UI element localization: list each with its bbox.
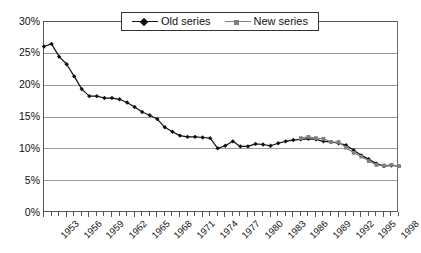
x-axis-tick-label: 1995 bbox=[375, 218, 398, 241]
x-axis-tick-label: 1986 bbox=[307, 218, 330, 241]
y-axis-tick-label: 15% bbox=[2, 111, 40, 121]
data-point-diamond bbox=[110, 96, 114, 100]
x-axis-tick-label: 1962 bbox=[126, 218, 149, 241]
data-point-diamond bbox=[117, 97, 121, 101]
chart-legend: Old series New series bbox=[121, 12, 319, 31]
x-axis-labels: 1953195619591962196519681971197419771980… bbox=[0, 216, 413, 253]
data-point-diamond bbox=[291, 138, 295, 142]
legend-line-new-series bbox=[225, 21, 251, 22]
x-axis-tick-label: 1953 bbox=[58, 218, 81, 241]
legend-item-old-series[interactable]: Old series bbox=[132, 16, 211, 27]
data-point-diamond bbox=[102, 96, 106, 100]
x-axis-tick-label: 1965 bbox=[149, 218, 172, 241]
y-axis-tick-label: 0% bbox=[2, 207, 40, 217]
data-point-square bbox=[306, 135, 310, 139]
legend-line-old-series bbox=[132, 21, 158, 22]
x-axis-tick-label: 1959 bbox=[104, 218, 127, 241]
data-point-square bbox=[314, 136, 318, 140]
data-point-diamond bbox=[95, 94, 99, 98]
data-point-square bbox=[344, 146, 348, 150]
data-point-square bbox=[390, 163, 394, 167]
x-axis-tick-label: 1992 bbox=[353, 218, 376, 241]
data-point-diamond bbox=[284, 139, 288, 143]
y-axis-tick-label: 20% bbox=[2, 79, 40, 89]
data-point-square bbox=[352, 151, 356, 155]
data-point-diamond bbox=[268, 144, 272, 148]
data-point-diamond bbox=[200, 135, 204, 139]
data-point-diamond bbox=[246, 144, 250, 148]
data-point-square bbox=[374, 163, 378, 167]
x-axis-tick-label: 1998 bbox=[398, 218, 421, 241]
y-axis-tick-label: 5% bbox=[2, 175, 40, 185]
x-axis-tick-label: 1977 bbox=[239, 218, 262, 241]
data-point-square bbox=[329, 140, 333, 144]
legend-label-old-series: Old series bbox=[161, 16, 211, 27]
y-axis-tick-label: 10% bbox=[2, 143, 40, 153]
data-point-diamond bbox=[261, 142, 265, 146]
legend-label-new-series: New series bbox=[254, 16, 308, 27]
plot-area bbox=[43, 21, 398, 212]
data-point-square bbox=[382, 164, 386, 168]
data-point-square bbox=[322, 137, 326, 141]
x-axis-tick-label: 1956 bbox=[81, 218, 104, 241]
data-point-diamond bbox=[178, 133, 182, 137]
data-point-square bbox=[359, 155, 363, 159]
data-point-diamond bbox=[148, 113, 152, 117]
x-axis-tick-label: 1989 bbox=[330, 218, 353, 241]
data-point-square bbox=[397, 164, 401, 168]
square-marker-icon bbox=[234, 20, 239, 25]
y-axis-tick-label: 30% bbox=[2, 16, 40, 26]
data-point-square bbox=[367, 159, 371, 163]
x-axis-tick-label: 1980 bbox=[262, 218, 285, 241]
x-axis-tick-label: 1983 bbox=[285, 218, 308, 241]
data-point-diamond bbox=[42, 44, 46, 48]
x-axis-tick-label: 1968 bbox=[171, 218, 194, 241]
x-axis-tick-label: 1971 bbox=[194, 218, 217, 241]
x-axis-tick-label: 1974 bbox=[217, 218, 240, 241]
data-point-diamond bbox=[193, 135, 197, 139]
legend-item-new-series[interactable]: New series bbox=[225, 16, 308, 27]
series-line-new bbox=[301, 137, 399, 166]
series-lines bbox=[44, 21, 399, 212]
data-point-diamond bbox=[276, 141, 280, 145]
data-point-square bbox=[299, 136, 303, 140]
data-point-diamond bbox=[253, 142, 257, 146]
diamond-marker-icon bbox=[140, 18, 148, 26]
data-point-square bbox=[337, 140, 341, 144]
y-axis-tick-label: 25% bbox=[2, 47, 40, 57]
data-point-diamond bbox=[185, 135, 189, 139]
